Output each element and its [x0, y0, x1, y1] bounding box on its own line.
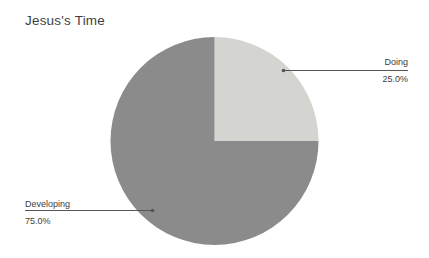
- doing-label-group: Doing 25.0%: [382, 57, 408, 85]
- pie-slice-doing: [215, 37, 319, 141]
- chart-canvas: Jesus's Time Doing 25.0% Developing 75.0…: [0, 0, 429, 258]
- developing-percent: 75.0%: [25, 216, 70, 227]
- developing-label: Developing: [25, 199, 70, 210]
- doing-leader-dot: [282, 69, 286, 73]
- developing-label-group: Developing 75.0%: [25, 199, 70, 227]
- doing-percent: 25.0%: [382, 74, 408, 85]
- developing-leader-dot: [151, 209, 155, 213]
- doing-label: Doing: [382, 57, 408, 68]
